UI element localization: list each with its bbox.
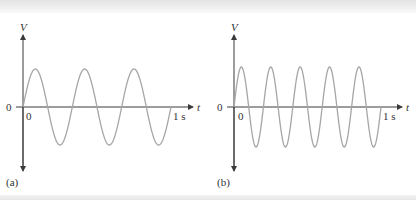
panel-a-x-label: t: [197, 101, 201, 113]
panel-a-origin-y: 0: [6, 101, 12, 113]
panel-b-x-label: t: [406, 101, 410, 113]
panel-b-caption: (b): [217, 176, 230, 189]
figure: V t 0 0 1 s (a) V t 0 0 1 s (b): [0, 0, 416, 200]
panel-b: V t 0 0 1 s (b): [217, 21, 410, 189]
panel-a: V t 0 0 1 s (a): [6, 21, 201, 189]
panel-b-origin-x: 0: [238, 110, 244, 122]
panel-b-y-label: V: [231, 21, 239, 33]
panel-a-end-x: 1 s: [173, 110, 186, 122]
panel-a-caption: (a): [6, 176, 19, 189]
panel-b-origin-y: 0: [217, 101, 223, 113]
panel-b-end-x: 1 s: [383, 110, 396, 122]
panel-a-y-label: V: [20, 21, 28, 33]
panel-a-origin-x: 0: [26, 110, 32, 122]
